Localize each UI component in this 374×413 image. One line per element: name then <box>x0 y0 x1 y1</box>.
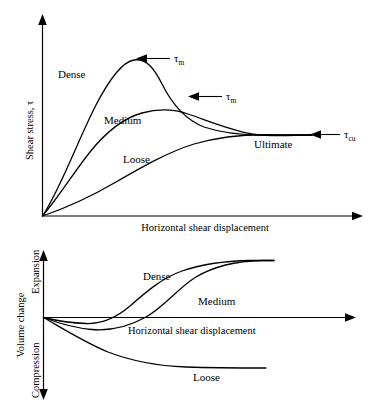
curve-label-medium-volume: Medium <box>198 295 236 307</box>
shear-stress-y-axis-label: Shear stress, τ <box>24 101 35 160</box>
curve-label-dense-volume: Dense <box>143 270 171 282</box>
svg-text:τm: τm <box>226 90 236 105</box>
ultimate-label: Ultimate <box>254 138 293 150</box>
svg-text:τm: τm <box>174 52 184 67</box>
tau-cu-subscript: cu <box>348 134 355 143</box>
curve-label-dense-shear: Dense <box>58 68 86 80</box>
shear-stress-panel: Shear stress, τ Horizontal shear displac… <box>24 14 363 233</box>
volume-change-x-axis <box>44 313 357 322</box>
volume-change-panel: Volume change Expansion Compression Hori… <box>15 249 356 400</box>
svg-text:τcu: τcu <box>344 128 356 143</box>
shear-stress-x-axis-label: Horizontal shear displacement <box>141 222 269 233</box>
expansion-label: Expansion <box>30 249 41 294</box>
tau-cu-annotation: τcu <box>310 128 356 143</box>
soil-shear-behaviour-figure: Shear stress, τ Horizontal shear displac… <box>0 0 374 413</box>
tau-m-medium-subscript: m <box>230 96 236 105</box>
tau-m-dense-subscript: m <box>178 58 184 67</box>
shear-stress-x-axis <box>43 212 364 221</box>
tau-m-annotation-medium: τm <box>188 90 236 105</box>
curve-label-loose-shear: Loose <box>123 153 150 165</box>
volume-change-x-axis-label: Horizontal shear displacement <box>128 325 256 336</box>
tau-m-annotation-dense: τm <box>136 52 184 67</box>
volume-change-y-axis-label: Volume change <box>15 292 26 357</box>
compression-label: Compression <box>30 342 41 398</box>
curve-label-medium-shear: Medium <box>104 114 142 126</box>
curve-label-loose-volume: Loose <box>193 371 220 383</box>
shear-stress-y-axis <box>38 14 47 216</box>
figure-container: Shear stress, τ Horizontal shear displac… <box>0 0 374 413</box>
